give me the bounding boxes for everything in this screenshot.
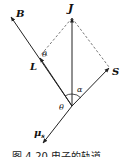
label-mu-subscript: s <box>41 132 45 139</box>
mu-s-vector <box>43 106 72 143</box>
dashed-j-to-s <box>72 18 109 67</box>
alpha-arc <box>72 94 81 98</box>
label-mu-s: μs <box>34 127 45 139</box>
label-j: J <box>66 2 74 15</box>
theta-lower-arc <box>65 94 72 96</box>
label-alpha: α <box>77 85 83 94</box>
label-theta-upper: θ <box>42 50 47 59</box>
figure-caption: 图 4-20 电子的轨道 <box>12 150 101 157</box>
l-vector <box>40 58 72 106</box>
label-theta-lower: θ <box>59 103 64 112</box>
label-mu: μ <box>34 127 41 138</box>
label-b: B <box>15 8 24 19</box>
label-s: S <box>112 66 119 77</box>
label-l: L <box>29 61 37 72</box>
vector-diagram: J B L S μs θ α θ 图 4-20 电子的轨道 <box>0 0 126 157</box>
